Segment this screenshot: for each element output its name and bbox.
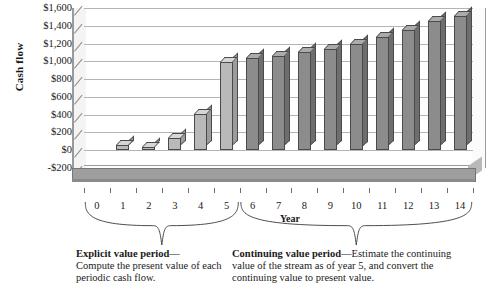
- x-axis-tick: [291, 188, 292, 193]
- y-axis-tick-label: $400: [18, 110, 72, 120]
- y-axis-tick-label: $1,600: [18, 3, 72, 13]
- bar-front-face: [220, 62, 233, 150]
- bar-front-face: [246, 58, 259, 150]
- bar-side-face: [441, 12, 446, 145]
- bar: [272, 51, 285, 150]
- x-axis-tick: [473, 188, 474, 193]
- gridline: [84, 8, 473, 9]
- y-axis-tick-label: $1,000: [18, 56, 72, 66]
- brace-svg: [0, 200, 483, 250]
- x-axis-tick: [240, 188, 241, 193]
- bar: [168, 133, 181, 150]
- bar: [220, 57, 233, 150]
- bar-front-face: [428, 21, 441, 150]
- y-axis-tick-label: $0: [18, 145, 72, 155]
- x-axis-tick: [110, 188, 111, 193]
- curly-brace-icon: [241, 202, 472, 245]
- annotation-continuing-label: Continuing value period: [232, 248, 341, 259]
- x-axis-tick: [447, 188, 448, 193]
- bar: [324, 44, 337, 150]
- x-axis-tick: [266, 188, 267, 193]
- bar: [376, 32, 389, 150]
- bar-front-face: [324, 49, 337, 150]
- x-axis-tick: [84, 188, 85, 193]
- x-axis-tick: [317, 188, 318, 193]
- bar: [402, 25, 415, 150]
- bar-side-face: [363, 34, 368, 145]
- bar: [142, 142, 155, 150]
- x-axis-tick: [395, 188, 396, 193]
- annotation-explicit-text: Compute the present value of each period…: [76, 260, 222, 283]
- bar-front-face: [272, 56, 285, 150]
- bar-side-face: [285, 46, 290, 145]
- bar: [246, 53, 259, 150]
- plot-floor-front: [72, 179, 474, 182]
- annotation-explicit-label: Explicit value period: [76, 248, 169, 259]
- bar-front-face: [402, 30, 415, 150]
- x-axis-tick: [343, 188, 344, 193]
- annotation-explicit-value-period: Explicit value period— Compute the prese…: [76, 248, 226, 285]
- plot-floor-edge: [84, 165, 473, 166]
- y-axis-line: [72, 8, 74, 180]
- bar: [116, 140, 129, 150]
- x-axis-ticks: [72, 188, 477, 196]
- bar: [298, 47, 311, 150]
- bar: [350, 39, 363, 151]
- y-axis-tick-label: $600: [18, 92, 72, 102]
- bar-side-face: [259, 48, 264, 145]
- annotation-continuing-dash: —: [341, 248, 352, 259]
- bar-front-face: [194, 114, 207, 150]
- x-axis-tick: [369, 188, 370, 193]
- brace-annotations: [0, 200, 483, 250]
- y-axis-tick-label: $1,400: [18, 21, 72, 31]
- bar-side-face: [233, 53, 238, 146]
- annotation-continuing-value-period: Continuing value period—Estimate the con…: [232, 248, 474, 285]
- bar-side-face: [337, 39, 342, 145]
- bar-front-face: [116, 145, 129, 150]
- bar-side-face: [467, 6, 472, 145]
- bar-side-face: [311, 43, 316, 145]
- bar-front-face: [350, 44, 363, 151]
- x-axis-tick: [136, 188, 137, 193]
- gridline: [84, 150, 473, 151]
- plot-right-wall: [472, 8, 486, 168]
- y-axis-tick-label: -$200: [18, 163, 72, 173]
- bar-front-face: [298, 52, 311, 150]
- bar: [194, 109, 207, 150]
- y-axis-tick-label: $1,200: [18, 39, 72, 49]
- bar: [428, 16, 441, 150]
- annotation-explicit-dash: —: [169, 248, 180, 259]
- curly-brace-icon: [85, 202, 238, 245]
- bar-front-face: [454, 16, 467, 150]
- x-axis-tick: [162, 188, 163, 193]
- x-axis-tick: [421, 188, 422, 193]
- x-axis-tick: [188, 188, 189, 193]
- y-axis-tick-label: $800: [18, 74, 72, 84]
- y-axis-tick-labels: $1,600$1,400$1,200$1,000$800$600$400$200…: [18, 0, 72, 200]
- bar-front-face: [168, 138, 181, 150]
- bar-side-face: [389, 28, 394, 145]
- x-axis-tick: [214, 188, 215, 193]
- bar-side-face: [415, 21, 420, 146]
- bar-front-face: [376, 37, 389, 150]
- bar: [454, 11, 467, 150]
- bar-front-face: [142, 147, 155, 150]
- plot-area: [72, 8, 477, 200]
- y-axis-tick-label: $200: [18, 127, 72, 137]
